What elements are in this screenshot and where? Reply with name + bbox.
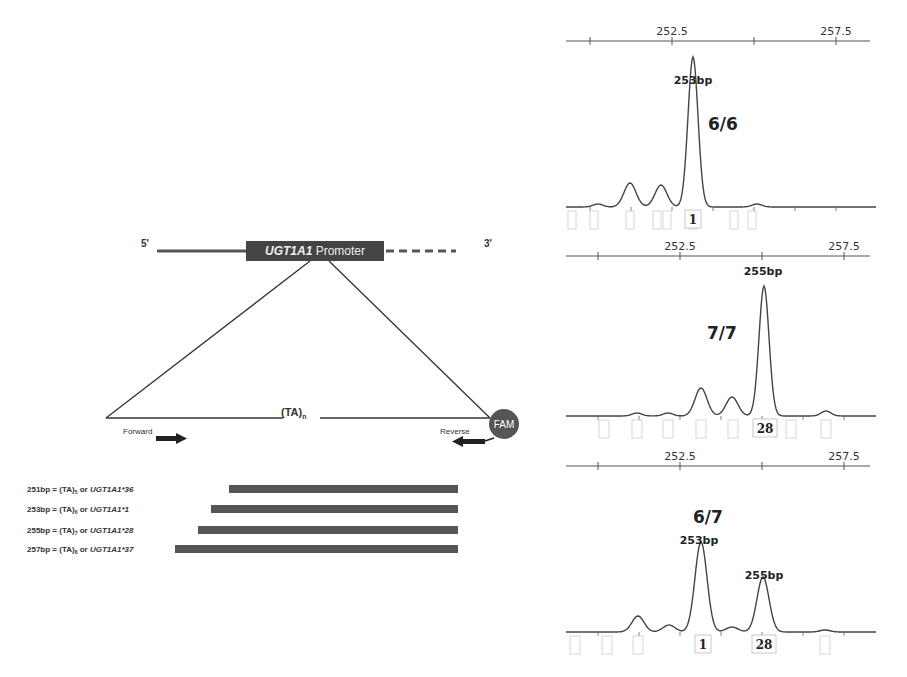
allele-bin-marker [663, 211, 671, 229]
electropherogram-3: 252.5257.5128253bp255bp6/7 [566, 450, 876, 654]
reverse-primer-label: Reverse [440, 427, 470, 436]
allele-bin-marker [599, 420, 609, 438]
allele-row: 255bp = (TA)7 or UGT1A1*28 [27, 526, 458, 536]
allele-row: 257bp = (TA)8 or UGT1A1*37 [27, 545, 458, 555]
peak-size-label: 255bp [745, 569, 784, 582]
axis-tick-label: 252.5 [664, 450, 696, 463]
allele-bin-label: 28 [757, 422, 774, 436]
expansion-line-right [329, 261, 490, 418]
allele-bin-marker [728, 420, 738, 438]
allele-bin-label: 1 [689, 213, 697, 227]
axis-tick-label: 252.5 [656, 25, 688, 38]
axis-tick-label: 252.5 [664, 240, 696, 253]
amplicon-length-bar [211, 505, 458, 513]
fam-label: FAM [494, 419, 515, 430]
peak-size-label: 253bp [674, 74, 713, 87]
allele-label: 253bp = (TA)6 or UGT1A1*1 [27, 505, 130, 515]
ta-repeat-label: (TA)n [281, 406, 306, 420]
allele-label: 255bp = (TA)7 or UGT1A1*28 [27, 526, 134, 536]
allele-bin-marker [786, 420, 796, 438]
three-prime-label: 3' [484, 238, 492, 249]
allele-label: 251bp = (TA)5 or UGT1A1*36 [27, 485, 134, 495]
trace-line [566, 286, 876, 416]
electropherogram-panels: 252.5257.51253bp6/6252.5257.528255bp7/72… [566, 25, 876, 654]
allele-bin-label: 28 [756, 638, 773, 652]
allele-bin-marker [602, 636, 612, 654]
genotype-label: 6/6 [708, 114, 738, 134]
figure-canvas: 5' UGT1A1 Promoter 3' (TA)n Forward Reve… [0, 0, 907, 677]
allele-legend: 251bp = (TA)5 or UGT1A1*36253bp = (TA)6 … [27, 485, 458, 555]
promoter-diagram: 5' UGT1A1 Promoter 3' (TA)n Forward Reve… [106, 238, 519, 447]
allele-row: 253bp = (TA)6 or UGT1A1*1 [27, 505, 458, 515]
genotype-label: 6/7 [693, 507, 723, 527]
electropherogram-2: 252.5257.528255bp7/7 [566, 240, 876, 438]
axis-tick-label: 257.5 [828, 450, 860, 463]
trace-line [566, 542, 876, 632]
amplicon-length-bar [229, 485, 458, 493]
promoter-word: Promoter [312, 244, 365, 258]
amplicon-length-bar [175, 545, 458, 553]
promoter-label: UGT1A1 Promoter [265, 244, 365, 258]
allele-bin-marker [653, 211, 661, 229]
allele-bin-marker [821, 420, 831, 438]
allele-bin-marker [748, 211, 756, 229]
allele-bin-marker [568, 211, 576, 229]
expansion-line-left [106, 261, 310, 418]
genotype-label: 7/7 [707, 323, 737, 343]
allele-bin-marker [663, 420, 673, 438]
five-prime-label: 5' [141, 238, 149, 249]
allele-label: 257bp = (TA)8 or UGT1A1*37 [27, 545, 134, 555]
allele-bin-marker [696, 420, 706, 438]
axis-tick-label: 257.5 [828, 240, 860, 253]
allele-bin-marker [590, 211, 598, 229]
allele-bin-marker [730, 211, 738, 229]
allele-bin-marker [633, 636, 643, 654]
allele-bin-marker [626, 211, 634, 229]
amplicon-length-bar [198, 526, 458, 534]
forward-primer-label: Forward [123, 427, 152, 436]
reverse-arrow-icon [452, 436, 494, 447]
peak-size-label: 255bp [744, 265, 783, 278]
allele-row: 251bp = (TA)5 or UGT1A1*36 [27, 485, 458, 495]
allele-bin-marker [632, 420, 642, 438]
peak-size-label: 253bp [680, 534, 719, 547]
promoter-gene-name: UGT1A1 [265, 244, 313, 258]
electropherogram-1: 252.5257.51253bp6/6 [566, 25, 876, 229]
allele-bin-label: 1 [699, 638, 707, 652]
forward-arrow-icon [156, 433, 187, 444]
allele-bin-marker [570, 636, 580, 654]
allele-bin-marker [820, 636, 830, 654]
axis-tick-label: 257.5 [820, 25, 852, 38]
